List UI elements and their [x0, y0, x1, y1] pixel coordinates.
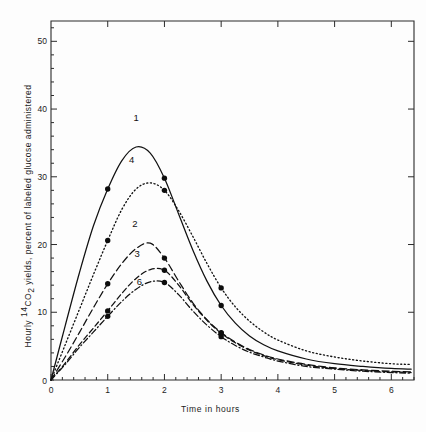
y-tick-label: 30 [38, 172, 48, 182]
series-label-1: 1 [133, 112, 138, 123]
data-point-marker [218, 303, 223, 308]
x-tick-label: 1 [105, 385, 110, 395]
x-axis-label: Time in hours [181, 404, 240, 414]
chart-plot-area: 012345610203040500 14236 Time in hours [0, 0, 426, 432]
data-point-marker [162, 268, 167, 273]
y-tick-label: 50 [38, 36, 48, 46]
data-point-marker [105, 186, 110, 191]
data-point-markers [105, 175, 224, 339]
y-tick-label: 20 [38, 240, 48, 250]
data-point-marker [162, 188, 167, 193]
data-point-marker [105, 314, 110, 319]
x-tick-label: 5 [332, 385, 337, 395]
data-point-marker [105, 308, 110, 313]
data-point-marker [162, 255, 167, 260]
curves-group [51, 147, 411, 380]
x-tick-label: 4 [276, 385, 281, 395]
series-curve-4 [51, 183, 411, 380]
data-point-marker [218, 285, 223, 290]
origin-label: 0 [42, 376, 47, 386]
y-tick-label: 10 [38, 307, 48, 317]
series-label-6: 6 [137, 276, 142, 287]
x-tick-label: 6 [389, 385, 394, 395]
x-tick-label: 0 [49, 385, 54, 395]
data-point-marker [105, 281, 110, 286]
axes-group: 012345610203040500 [38, 21, 414, 395]
y-tick-label: 40 [38, 104, 48, 114]
series-curve-6 [51, 281, 411, 380]
x-tick-label: 3 [219, 385, 224, 395]
x-tick-label: 2 [162, 385, 167, 395]
x-axis-title: Time in hours [181, 404, 240, 414]
plot-frame [51, 21, 414, 380]
series-label-4: 4 [129, 154, 134, 165]
series-curve-3 [51, 268, 411, 380]
data-point-marker [105, 238, 110, 243]
series-label-3: 3 [135, 248, 140, 259]
figure-container: 012345610203040500 14236 Time in hours H… [0, 0, 426, 432]
data-point-marker [162, 280, 167, 285]
series-label-2: 2 [132, 218, 137, 229]
series-labels: 14236 [129, 112, 142, 287]
data-point-marker [218, 334, 223, 339]
series-curve-2 [51, 243, 411, 380]
data-point-marker [162, 175, 167, 180]
series-curve-1 [51, 147, 411, 380]
